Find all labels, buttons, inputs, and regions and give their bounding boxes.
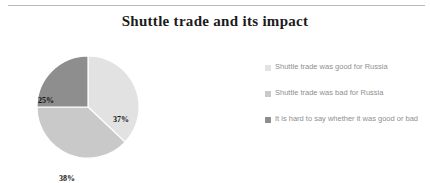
pie-slice-label-hard-to-say: 25% [38,96,54,105]
chart-title: Shuttle trade and its impact [0,13,430,30]
chart-figure: Shuttle trade and its impact 37% 38% 25%… [0,0,430,183]
legend-label-hard-to-say: It is hard to say whether it was good or… [275,114,418,124]
legend-label-bad: Shuttle trade was bad for Russia [275,88,383,98]
top-divider-rule [8,5,425,6]
legend-item-hard-to-say[interactable]: It is hard to say whether it was good or… [265,114,430,124]
legend-item-good[interactable]: Shuttle trade was good for Russia [265,62,430,72]
legend-item-bad[interactable]: Shuttle trade was bad for Russia [265,88,430,98]
pie-svg [35,54,141,160]
legend-label-good: Shuttle trade was good for Russia [275,62,388,72]
pie-slice-label-good: 37% [113,115,129,124]
legend-swatch-icon-hard-to-say [265,117,271,123]
legend-swatch-icon-good [265,65,271,71]
pie-chart [35,54,141,160]
chart-legend: Shuttle trade was good for Russia Shuttl… [265,62,430,140]
pie-plot-area: 37% 38% 25% [0,32,260,183]
pie-slice-label-bad: 38% [59,174,75,183]
legend-swatch-icon-bad [265,91,271,97]
